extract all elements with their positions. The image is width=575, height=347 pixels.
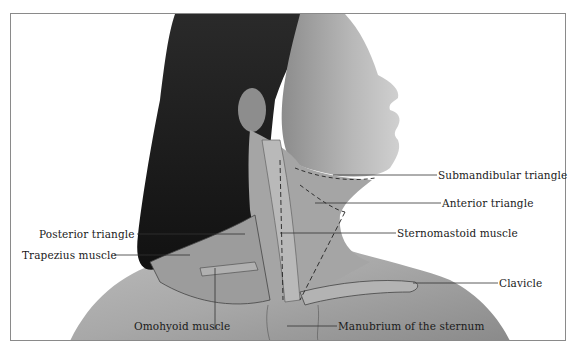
label-sternomastoid-muscle: Sternomastoid muscle: [397, 227, 518, 239]
label-clavicle: Clavicle: [499, 277, 542, 289]
label-manubrium: Manubrium of the sternum: [338, 320, 485, 332]
label-posterior-triangle: Posterior triangle: [39, 228, 135, 240]
label-anterior-triangle: Anterior triangle: [442, 197, 533, 209]
label-omohyoid-muscle: Omohyoid muscle: [134, 320, 230, 332]
label-submandibular-triangle: Submandibular triangle: [438, 169, 567, 181]
face-shape: [282, 14, 400, 177]
ear-shape: [238, 88, 266, 132]
label-trapezius-muscle: Trapezius muscle: [22, 249, 117, 261]
